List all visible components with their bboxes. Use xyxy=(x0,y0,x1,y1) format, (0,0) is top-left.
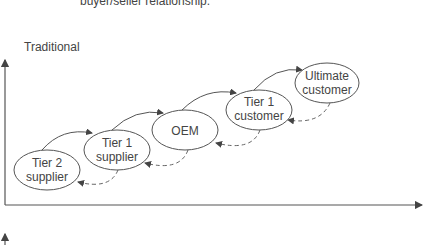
svg-text:supplier: supplier xyxy=(96,150,138,164)
svg-text:OEM: OEM xyxy=(171,124,198,138)
flow-arrow xyxy=(254,69,302,90)
svg-text:Tier 1: Tier 1 xyxy=(244,95,275,109)
node-oem: OEM xyxy=(152,110,218,150)
node-tier2-supplier: Tier 2 supplier xyxy=(14,150,80,190)
svg-text:supplier: supplier xyxy=(26,170,68,184)
svg-text:customer: customer xyxy=(302,83,351,97)
node-ultimate-customer: Ultimate customer xyxy=(295,63,359,103)
svg-text:customer: customer xyxy=(234,109,283,123)
supply-chain-diagram: Tier 2 supplier Tier 1 supplier OEM Tier… xyxy=(0,0,426,245)
return-arrow xyxy=(216,130,260,146)
node-tier1-customer: Tier 1 customer xyxy=(226,90,292,130)
return-arrow xyxy=(145,150,188,166)
svg-text:Ultimate: Ultimate xyxy=(305,69,349,83)
return-arrow xyxy=(78,170,118,184)
svg-text:Tier 2: Tier 2 xyxy=(32,156,63,170)
node-tier1-supplier: Tier 1 supplier xyxy=(84,130,150,170)
return-arrow xyxy=(288,103,330,121)
svg-text:Tier 1: Tier 1 xyxy=(102,136,133,150)
